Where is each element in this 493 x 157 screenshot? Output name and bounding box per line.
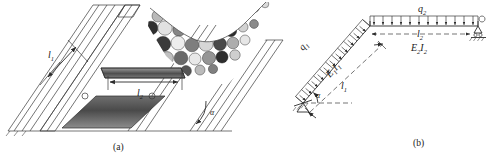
caption-b: (b): [413, 138, 424, 149]
panel-b-labels: q1 q2 E1I1 E2I2 l1 l2 α (b): [296, 3, 427, 149]
label-l2-b: l2: [417, 28, 424, 41]
figure-root: l1 l2 α (a): [0, 0, 493, 157]
technical-figure: l1 l2 α (a): [0, 0, 493, 157]
label-l1-b: l1: [341, 80, 347, 93]
dimension-l1-b: [305, 41, 386, 118]
label-l1-a: l1: [48, 49, 54, 62]
lower-platform: [62, 96, 165, 128]
panel-a-diagram: [6, 0, 300, 136]
rubble-fill: [140, 0, 300, 95]
q1-load-band-rungs: [296, 20, 371, 104]
label-e2i2: E2I2: [410, 42, 428, 55]
inclined-member: [296, 20, 371, 104]
label-q2: q2: [418, 3, 427, 16]
upper-beam: [101, 68, 185, 78]
ground-hatching-a: [6, 131, 26, 136]
q1-load-arrows: [300, 26, 366, 101]
label-alpha-a: α: [210, 108, 215, 117]
dimension-l1-a: [40, 40, 88, 85]
label-l2-a: l2: [137, 87, 144, 100]
label-q1: q1: [296, 39, 311, 53]
caption-a: (a): [113, 142, 124, 153]
fixed-support-base: [293, 100, 312, 112]
panel-b-diagram: [293, 16, 486, 118]
label-alpha-b: α: [316, 91, 321, 100]
q2-load-arrows: [374, 16, 473, 25]
horizontal-member: [370, 16, 478, 26]
